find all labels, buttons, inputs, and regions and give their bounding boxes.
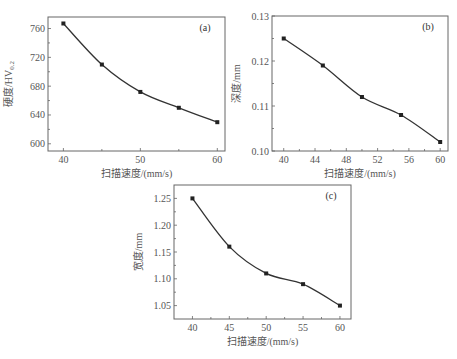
- y-tick-label: 0.10: [252, 146, 270, 157]
- x-tick-label: 45: [224, 322, 234, 333]
- chart-a-hardness: 405060600640680720760(a)扫描速度/(mm/s)硬度/HV…: [2, 17, 225, 180]
- panel-label: (c): [325, 190, 336, 202]
- data-point-marker: [61, 21, 65, 25]
- chart-b-depth: 4044485256600.100.110.120.13(b)扫描速度/(mm/…: [230, 11, 448, 181]
- data-point-marker: [190, 196, 194, 200]
- x-axis-title: 扫描速度/(mm/s): [324, 167, 396, 180]
- x-axis-title: 扫描速度/(mm/s): [227, 335, 299, 348]
- y-tick-label: 720: [30, 52, 45, 63]
- data-point-marker: [338, 304, 342, 308]
- data-point-marker: [321, 64, 325, 68]
- data-line: [63, 23, 217, 122]
- chart-c-width: 40455055601.051.101.151.201.25(c)扫描速度/(m…: [132, 185, 351, 348]
- panel-label: (b): [422, 21, 434, 33]
- plot-frame: [48, 17, 225, 151]
- y-axis-title: 宽度/mm: [132, 233, 144, 272]
- x-tick-label: 50: [261, 322, 271, 333]
- y-axis-title: 硬度/HV0.2: [2, 61, 16, 107]
- y-tick-label: 0.11: [252, 101, 269, 112]
- y-tick-label: 1.10: [154, 273, 172, 284]
- y-tick-label: 1.25: [154, 193, 172, 204]
- x-tick-label: 60: [335, 322, 345, 333]
- y-tick-label: 0.13: [252, 11, 270, 22]
- x-tick-label: 52: [373, 154, 383, 165]
- figure: 405060600640680720760(a)扫描速度/(mm/s)硬度/HV…: [0, 0, 457, 359]
- data-point-marker: [177, 106, 181, 110]
- y-tick-label: 1.15: [154, 247, 172, 258]
- x-axis-title: 扫描速度/(mm/s): [101, 167, 173, 180]
- data-point-marker: [227, 245, 231, 249]
- x-tick-label: 60: [212, 154, 222, 165]
- plot-frame: [272, 16, 448, 151]
- data-point-marker: [264, 271, 268, 275]
- data-point-marker: [301, 282, 305, 286]
- x-tick-label: 48: [341, 154, 351, 165]
- panel-label: (a): [199, 22, 210, 34]
- x-tick-label: 40: [58, 154, 68, 165]
- data-point-marker: [438, 140, 442, 144]
- x-tick-label: 44: [310, 154, 320, 165]
- data-point-marker: [100, 63, 104, 67]
- data-point-marker: [360, 95, 364, 99]
- y-tick-label: 680: [30, 81, 45, 92]
- x-tick-label: 55: [298, 322, 308, 333]
- data-point-marker: [399, 113, 403, 117]
- y-tick-label: 1.20: [154, 220, 172, 231]
- y-tick-label: 760: [30, 23, 45, 34]
- x-tick-label: 40: [279, 154, 289, 165]
- data-point-marker: [282, 37, 286, 41]
- x-tick-label: 56: [404, 154, 414, 165]
- y-axis-title: 深度/mm: [230, 64, 242, 103]
- plot-frame: [174, 185, 351, 319]
- data-point-marker: [215, 120, 219, 124]
- y-tick-label: 600: [30, 138, 45, 149]
- y-tick-label: 640: [30, 109, 45, 120]
- x-tick-label: 60: [435, 154, 445, 165]
- x-tick-label: 50: [135, 154, 145, 165]
- y-tick-label: 0.12: [252, 56, 270, 67]
- x-tick-label: 40: [187, 322, 197, 333]
- data-line: [284, 39, 440, 143]
- data-line: [192, 198, 340, 305]
- data-point-marker: [138, 90, 142, 94]
- y-tick-label: 1.05: [154, 300, 172, 311]
